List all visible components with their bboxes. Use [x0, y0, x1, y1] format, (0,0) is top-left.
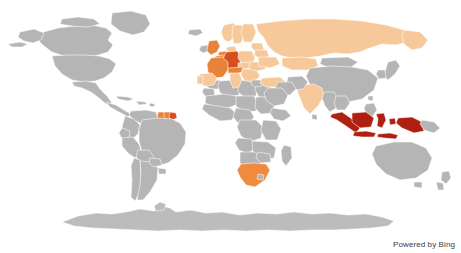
- world-map-canvas[interactable]: [0, 0, 461, 253]
- country-sri-lanka[interactable]: [312, 114, 317, 120]
- country-indonesia-maluku[interactable]: [389, 118, 396, 125]
- world-map-widget[interactable]: Powered by Bing: [0, 0, 461, 253]
- country-uruguay[interactable]: [158, 168, 166, 174]
- country-caribbean-islands[interactable]: [149, 103, 155, 107]
- country-taiwan[interactable]: [368, 96, 373, 101]
- country-lesotho[interactable]: [257, 174, 264, 180]
- country-portugal[interactable]: [197, 76, 203, 84]
- country-tasmania[interactable]: [414, 182, 422, 188]
- map-attribution: Powered by Bing: [393, 240, 455, 249]
